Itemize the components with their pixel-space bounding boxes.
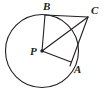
geometry-figure: B C P A [0, 0, 104, 92]
segment-PB [42, 15, 45, 51]
geometry-canvas [0, 0, 104, 92]
segment-CA [70, 17, 88, 66]
point-label-B: B [43, 1, 50, 12]
center-point-dot [40, 49, 43, 52]
point-label-P: P [30, 46, 37, 57]
point-label-A: A [74, 64, 81, 75]
segment-PA [42, 51, 71, 62]
point-label-C: C [91, 5, 98, 16]
